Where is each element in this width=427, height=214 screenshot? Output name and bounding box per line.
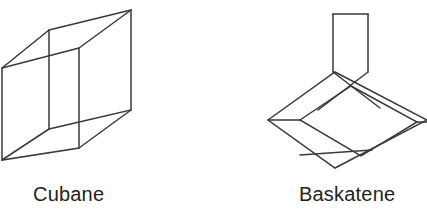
cubane-label: Cubane: [33, 184, 104, 204]
cubane-back-face: [2, 48, 79, 160]
baskatene-structure: [268, 14, 427, 168]
cubane-edge-bottom-left: [2, 129, 49, 160]
figure-root: Cubane Baskatene: [0, 0, 427, 214]
cubane-front-face: [49, 10, 131, 129]
structures-canvas: [0, 0, 427, 214]
baskatene-label: Baskatene: [299, 184, 395, 204]
baskatene-inner-diamond: [300, 86, 417, 156]
cubane-structure: [2, 10, 131, 160]
baskatene-cross-left: [333, 72, 380, 108]
